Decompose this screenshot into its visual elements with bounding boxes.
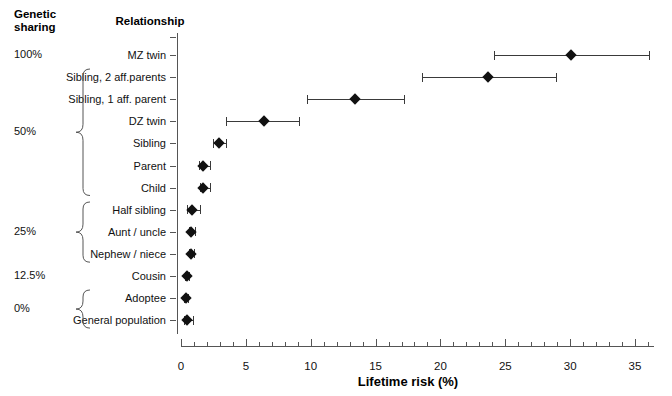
genetic-sharing-label: 0% bbox=[14, 302, 30, 314]
y-axis-line bbox=[177, 33, 178, 334]
x-axis-minor-tick bbox=[298, 342, 299, 346]
genetic-sharing-brace bbox=[75, 68, 91, 197]
x-axis-minor-tick bbox=[389, 342, 390, 346]
x-axis-minor-tick bbox=[285, 342, 286, 346]
data-point-marker[interactable] bbox=[181, 292, 192, 303]
confidence-interval-cap-high bbox=[299, 117, 300, 126]
genetic-sharing-brace bbox=[75, 289, 91, 329]
relationship-label: MZ twin bbox=[128, 49, 167, 61]
y-axis-tick bbox=[170, 55, 176, 56]
x-axis-major-tick bbox=[246, 339, 247, 346]
x-axis-minor-tick bbox=[427, 342, 428, 346]
x-axis-minor-tick bbox=[596, 342, 597, 346]
x-axis-minor-tick bbox=[466, 342, 467, 346]
x-axis-minor-tick bbox=[324, 342, 325, 346]
genetic-sharing-brace bbox=[75, 201, 91, 263]
data-point-marker[interactable] bbox=[186, 248, 197, 259]
confidence-interval-cap-high bbox=[200, 205, 201, 214]
y-axis-tick bbox=[170, 121, 176, 122]
confidence-interval-cap-low bbox=[307, 95, 308, 104]
x-axis-minor-tick bbox=[492, 342, 493, 346]
x-axis-major-tick bbox=[376, 339, 377, 346]
confidence-interval-cap-low bbox=[226, 117, 227, 126]
y-axis-tick bbox=[170, 276, 176, 277]
y-axis-tick bbox=[170, 143, 176, 144]
x-axis-tick-label: 20 bbox=[434, 360, 447, 372]
y-axis-tick bbox=[170, 320, 176, 321]
data-point-marker[interactable] bbox=[566, 49, 577, 60]
genetic-sharing-label: 50% bbox=[14, 125, 36, 137]
x-axis-minor-tick bbox=[363, 342, 364, 346]
x-axis-tick-label: 5 bbox=[243, 360, 249, 372]
data-point-marker[interactable] bbox=[483, 71, 494, 82]
y-axis-tick bbox=[170, 232, 176, 233]
data-point-marker[interactable] bbox=[197, 182, 208, 193]
x-axis-minor-tick bbox=[350, 342, 351, 346]
x-axis-major-tick bbox=[181, 339, 182, 346]
y-axis-tick bbox=[170, 77, 176, 78]
relationship-label: Child bbox=[141, 182, 166, 194]
x-axis-line bbox=[181, 346, 654, 347]
x-axis-minor-tick bbox=[194, 342, 195, 346]
y-axis-tick bbox=[170, 298, 176, 299]
x-axis-minor-tick bbox=[544, 342, 545, 346]
relationship-label: Aunt / uncle bbox=[108, 226, 166, 238]
x-axis-tick-label: 30 bbox=[564, 360, 577, 372]
x-axis-minor-tick bbox=[557, 342, 558, 346]
x-axis-minor-tick bbox=[414, 342, 415, 346]
x-axis-minor-tick bbox=[207, 342, 208, 346]
data-point-marker[interactable] bbox=[258, 116, 269, 127]
x-axis-minor-tick bbox=[583, 342, 584, 346]
x-axis-minor-tick bbox=[609, 342, 610, 346]
forest-plot-figure: Genetic sharing Relationship 05101520253… bbox=[0, 0, 672, 396]
x-axis-minor-tick bbox=[402, 342, 403, 346]
data-point-marker[interactable] bbox=[349, 94, 360, 105]
x-axis-minor-tick bbox=[648, 342, 649, 346]
x-axis-major-tick bbox=[635, 339, 636, 346]
x-axis-minor-tick bbox=[479, 342, 480, 346]
x-axis-tick-label: 0 bbox=[178, 360, 184, 372]
y-axis-tick bbox=[170, 99, 176, 100]
confidence-interval-cap-high bbox=[210, 183, 211, 192]
x-axis-minor-tick bbox=[622, 342, 623, 346]
x-axis-major-tick bbox=[440, 339, 441, 346]
x-axis-minor-tick bbox=[337, 342, 338, 346]
y-axis-tick bbox=[170, 254, 176, 255]
relationship-label: Parent bbox=[134, 160, 166, 172]
genetic-sharing-label: 25% bbox=[14, 225, 36, 237]
x-axis-minor-tick bbox=[531, 342, 532, 346]
x-axis-major-tick bbox=[570, 339, 571, 346]
x-axis-minor-tick bbox=[272, 342, 273, 346]
x-axis-tick-label: 15 bbox=[369, 360, 382, 372]
y-axis-tick bbox=[170, 210, 176, 211]
confidence-interval-cap-high bbox=[404, 95, 405, 104]
x-axis-major-tick bbox=[311, 339, 312, 346]
plot-area: 05101520253035MZ twinSibling, 2 aff.pare… bbox=[0, 0, 672, 396]
relationship-label: Nephew / niece bbox=[90, 248, 166, 260]
confidence-interval-cap-low bbox=[494, 51, 495, 60]
genetic-sharing-label: 12.5% bbox=[14, 269, 45, 281]
confidence-interval-cap-high bbox=[226, 139, 227, 148]
x-axis-tick-label: 10 bbox=[304, 360, 317, 372]
y-axis-tick bbox=[170, 166, 176, 167]
x-axis-minor-tick bbox=[453, 342, 454, 346]
confidence-interval-cap-high bbox=[193, 316, 194, 325]
data-point-marker[interactable] bbox=[213, 138, 224, 149]
x-axis-minor-tick bbox=[518, 342, 519, 346]
relationship-label: Adoptee bbox=[125, 292, 166, 304]
x-axis-tick-label: 35 bbox=[629, 360, 642, 372]
x-axis-tick-label: 25 bbox=[499, 360, 512, 372]
x-axis-title: Lifetime risk (%) bbox=[181, 374, 635, 389]
y-axis-tick-header bbox=[170, 37, 176, 38]
relationship-label: Sibling bbox=[133, 137, 166, 149]
x-axis-major-tick bbox=[505, 339, 506, 346]
y-axis-tick bbox=[170, 188, 176, 189]
confidence-interval-cap-high bbox=[556, 73, 557, 82]
x-axis-minor-tick bbox=[220, 342, 221, 346]
relationship-label: DZ twin bbox=[129, 115, 166, 127]
relationship-label: Cousin bbox=[132, 270, 166, 282]
confidence-interval-cap-high bbox=[210, 161, 211, 170]
x-axis-minor-tick bbox=[259, 342, 260, 346]
data-point-marker[interactable] bbox=[181, 270, 192, 281]
confidence-interval-cap-low bbox=[422, 73, 423, 82]
